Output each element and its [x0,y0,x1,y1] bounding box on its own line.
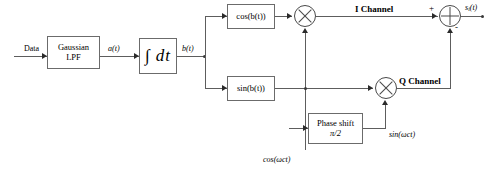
sin-block-label: sin(b(t)) [237,84,265,94]
arrow-i-into-summer [432,13,437,19]
gaussian-lpf-line2: LPF [66,53,81,63]
label-signal-at: a(t) [108,44,120,53]
integrator-symbol: ∫ dt [145,46,171,66]
arrow-carrier-into-mult-i [302,28,308,33]
output-tail: (t) [470,3,478,12]
arrow-carrier-sin-into-mult-q [382,100,388,105]
arrow-into-mult-q [368,85,373,91]
block-gaussian-lpf[interactable]: Gaussian LPF [47,36,100,69]
wire-integrator-to-split [177,56,205,57]
arrow-into-mult-i [287,13,292,19]
phase-shift-line2: π/2 [330,129,341,139]
multiplier-q-channel[interactable] [375,77,397,99]
block-cos-bt[interactable]: cos(b(t)) [227,4,275,29]
node-output-terminal [481,15,484,18]
block-diagram-canvas: Data Gaussian LPF a(t) ∫ dt b(t) cos(b(t… [0,0,498,179]
label-q-channel: Q Channel [399,76,441,86]
wire-phase-shift-out [363,128,386,129]
block-sin-bt[interactable]: sin(b(t)) [227,76,275,101]
wire-i-channel [316,16,438,17]
label-carrier-sin: sin(ωct) [389,130,415,139]
wire-split-vertical [205,16,206,88]
label-i-channel: I Channel [355,4,393,14]
wire-carrier-cos-vertical [305,32,306,150]
wire-q-channel [397,88,450,89]
label-data-input: Data [24,44,39,53]
arrow-q-into-summer [447,28,453,33]
multiplier-i-channel[interactable] [294,5,316,27]
block-phase-shift[interactable]: Phase shift π/2 [308,113,363,144]
label-output-signal: si(t) [465,3,477,12]
block-integrator[interactable]: ∫ dt [139,38,177,74]
label-sum-minus: - [455,22,458,32]
wire-summer-output [461,16,483,17]
wire-phase-shift-up-to-mult-q [385,104,386,129]
node-carrier-cos-tap [304,87,307,90]
label-carrier-cos: cos(ωct) [263,155,290,164]
label-signal-bt: b(t) [182,44,194,53]
wire-q-up-to-summer [450,32,451,89]
cos-block-label: cos(b(t)) [236,12,265,22]
label-sum-plus: + [429,3,434,13]
wire-sin-to-mult-q [275,88,373,89]
